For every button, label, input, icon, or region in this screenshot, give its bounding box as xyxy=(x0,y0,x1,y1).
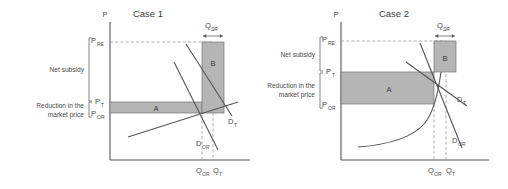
price-re-label: P xyxy=(91,36,96,45)
region-b-label: B xyxy=(442,54,447,63)
demand-dor-sub: OR xyxy=(458,141,466,147)
price-re-sub: RE xyxy=(97,41,105,47)
price-or-sub: OR xyxy=(97,114,105,120)
reduction-text-line1: Reduction in the xyxy=(267,82,315,89)
panel-title: Case 1 xyxy=(133,8,163,19)
net-subsidy-brace xyxy=(89,38,92,101)
reduction-text-line2: market price xyxy=(279,91,316,99)
reduction-text-line2: market price xyxy=(48,111,85,119)
region-a-label: A xyxy=(386,85,391,94)
price-t-sub: T xyxy=(101,102,104,108)
price-t-label: P xyxy=(326,67,331,76)
demand-dt-sub: T xyxy=(463,100,466,106)
y-axis-label: P xyxy=(102,10,107,19)
region-a-label: A xyxy=(153,104,158,113)
panel-case-2: Case 2 P A B D T D OR xyxy=(254,0,508,189)
price-re-label: P xyxy=(322,35,327,44)
price-re-sub: RE xyxy=(328,40,336,46)
figure-canvas: Case 1 P A B D T D xyxy=(0,0,508,189)
panel-case-1: Case 1 P A B D T D xyxy=(0,0,254,189)
quantity-sr-arrow xyxy=(203,34,223,38)
demand-dt-sub: T xyxy=(234,122,237,128)
quantity-sr-arrow xyxy=(435,34,455,38)
quantity-or-tick-sub: OR xyxy=(434,171,442,177)
quantity-t-tick-sub: T xyxy=(219,171,222,177)
region-b-rect xyxy=(202,42,224,113)
price-t-label: P xyxy=(95,97,100,106)
price-t-sub: T xyxy=(332,72,335,78)
quantity-sr-sub: SR xyxy=(443,26,450,32)
reduction-text-line1: Reduction in the xyxy=(36,102,84,109)
y-axis-label: P xyxy=(333,10,338,19)
net-subsidy-text: Net subsidy xyxy=(281,51,316,59)
panel-title: Case 2 xyxy=(379,8,409,19)
quantity-t-tick-sub: T xyxy=(452,171,455,177)
net-subsidy-text: Net subsidy xyxy=(50,66,85,74)
price-or-sub: OR xyxy=(328,105,336,111)
quantity-sr-sub: SR xyxy=(211,26,218,32)
region-b-label: B xyxy=(210,59,215,68)
demand-dor-sub: OR xyxy=(202,144,210,150)
quantity-or-tick-sub: OR xyxy=(202,171,210,177)
